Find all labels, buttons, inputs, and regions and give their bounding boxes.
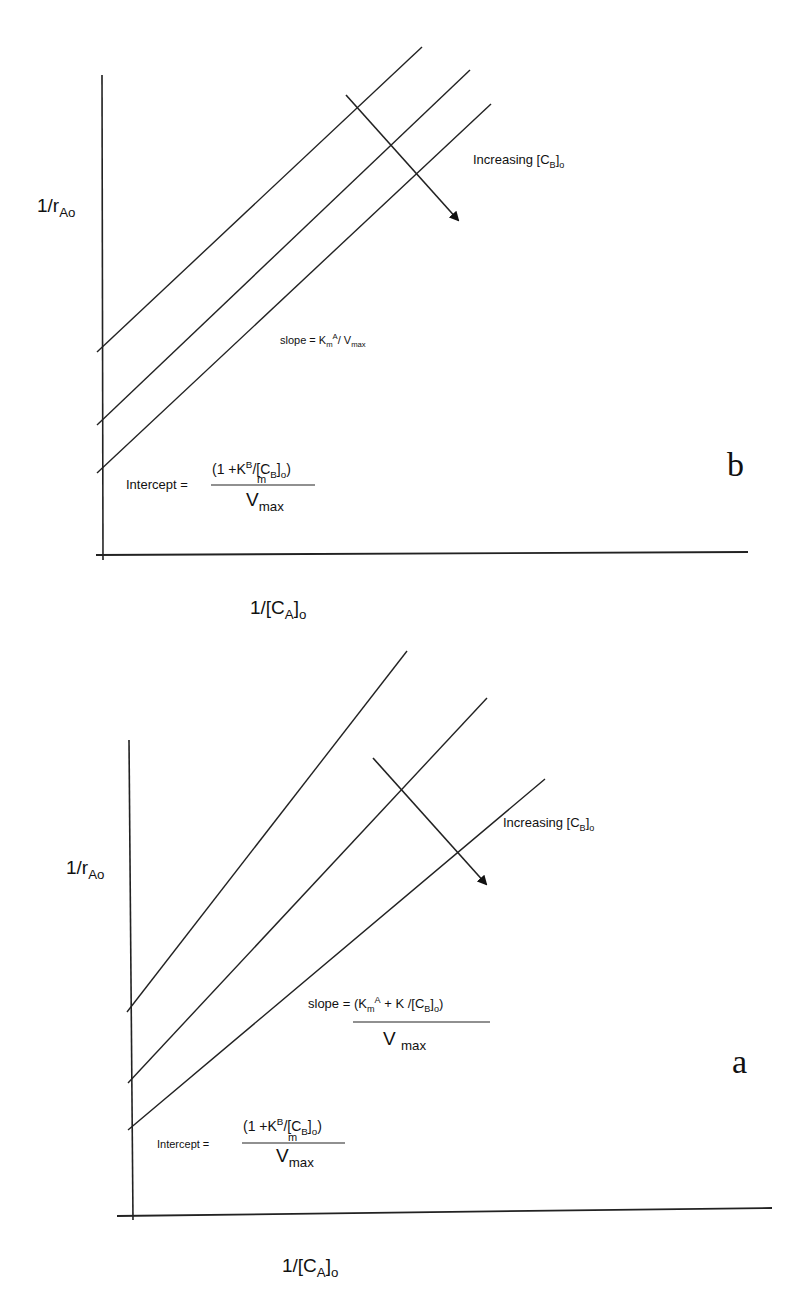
panel-a-plot <box>117 651 772 1220</box>
panel-a-increasing-arrow <box>373 758 486 884</box>
panel-b-intercept-denominator: Vmax <box>246 490 284 509</box>
panel-a-x-axis-label: 1/[CA]o <box>282 1256 338 1275</box>
panel-a-letter: a <box>732 1045 747 1079</box>
panel-b-line-1 <box>97 47 422 352</box>
panel-b-intercept-label: Intercept = <box>126 478 188 491</box>
panel-b-x-axis-label: 1/[CA]o <box>250 598 306 617</box>
panel-b-increasing-label: Increasing [CB]o <box>473 153 564 166</box>
panel-a-line-1 <box>127 651 407 1012</box>
panel-b-line-3 <box>97 104 491 473</box>
panel-b-line-2 <box>97 70 470 425</box>
panel-a-x-axis <box>117 1208 772 1216</box>
panel-b-y-axis-label: 1/rAo <box>37 196 75 215</box>
panel-a-line-3 <box>128 779 545 1130</box>
panel-b-slope-label: slope = KmA/ Vmax <box>280 335 366 346</box>
panel-b-intercept-m-subscript: m <box>257 474 266 485</box>
panel-b-y-axis <box>102 75 103 560</box>
panel-a-intercept-label: Intercept = <box>157 1139 209 1150</box>
panel-b-intercept-numerator: (1 +KB/[CB]o) <box>212 462 291 476</box>
panel-a-y-axis-label: 1/rAo <box>66 858 104 877</box>
panel-a-intercept-m-subscript: m <box>288 1132 297 1143</box>
panel-b-x-axis <box>96 552 748 555</box>
panel-b-increasing-arrow <box>346 95 458 220</box>
panel-a-slope-numerator: slope = (KmA + K /[CB]o) <box>308 997 443 1010</box>
panel-a-slope-denominator: V max <box>383 1029 426 1048</box>
panel-a-increasing-label: Increasing [CB]o <box>503 816 594 829</box>
panel-b-plot <box>96 47 748 560</box>
panel-b-letter: b <box>727 448 744 482</box>
panel-a-line-2 <box>128 698 487 1083</box>
panel-a-intercept-denominator: Vmax <box>276 1146 314 1165</box>
panel-a-y-axis <box>129 740 133 1220</box>
figure-canvas <box>0 0 793 1293</box>
panel-a-intercept-numerator: (1 +KB/[CB]o) <box>243 1119 322 1133</box>
